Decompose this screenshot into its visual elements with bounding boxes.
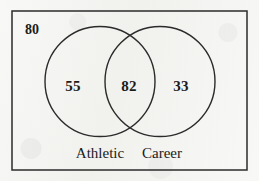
career-only-count-label: 33 [173,79,188,94]
intersection-count-label: 82 [121,79,136,94]
venn-diagram-figure: 80 55 82 33 Athletic Career [0,0,259,181]
set-circle-athletic [45,27,155,137]
set-label-athletic: Athletic [76,146,124,161]
set-label-career: Career [142,146,182,161]
athletic-only-count-label: 55 [65,79,80,94]
universe-outside-count-label: 80 [25,23,39,37]
